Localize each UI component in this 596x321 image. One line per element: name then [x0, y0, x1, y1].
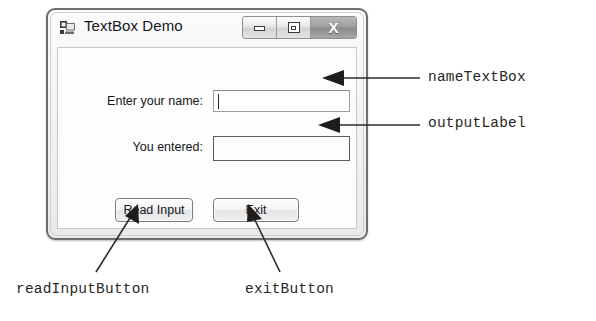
- annotation-name-textbox: nameTextBox: [428, 69, 526, 85]
- screenshot-root: TextBox Demo X Enter your: [0, 0, 596, 321]
- close-button[interactable]: X: [311, 17, 356, 38]
- exit-button[interactable]: Exit: [213, 198, 299, 222]
- window-client-area: Enter your name: You entered: Read Input: [57, 47, 357, 229]
- window-controls: X: [242, 16, 357, 39]
- minimize-button[interactable]: [243, 17, 277, 38]
- name-textbox[interactable]: [213, 90, 350, 112]
- output-caption-label: You entered:: [133, 140, 203, 154]
- output-field-row: You entered:: [58, 136, 356, 162]
- window-title: TextBox Demo: [84, 17, 183, 34]
- name-label-cell: Enter your name:: [78, 90, 203, 112]
- form-application-icon: [60, 21, 75, 35]
- window-titlebar[interactable]: TextBox Demo X: [48, 10, 366, 44]
- output-label-cell: You entered:: [78, 136, 203, 158]
- annotation-exit-button: exitButton: [245, 281, 334, 297]
- textbox-demo-window: TextBox Demo X Enter your: [46, 8, 368, 240]
- read-input-button[interactable]: Read Input: [115, 198, 193, 222]
- annotation-read-button: readInputButton: [16, 281, 150, 297]
- name-field-row: Enter your name:: [58, 90, 356, 116]
- maximize-button[interactable]: [277, 17, 311, 38]
- annotation-output-label: outputLabel: [428, 115, 526, 131]
- close-icon: X: [328, 20, 338, 35]
- output-label: [213, 136, 350, 161]
- minimize-icon: [254, 26, 265, 31]
- exit-button-label: Exit: [246, 203, 267, 217]
- text-caret: [218, 94, 219, 109]
- read-input-button-label: Read Input: [123, 203, 184, 217]
- name-label: Enter your name:: [107, 94, 203, 108]
- maximize-icon: [288, 22, 300, 33]
